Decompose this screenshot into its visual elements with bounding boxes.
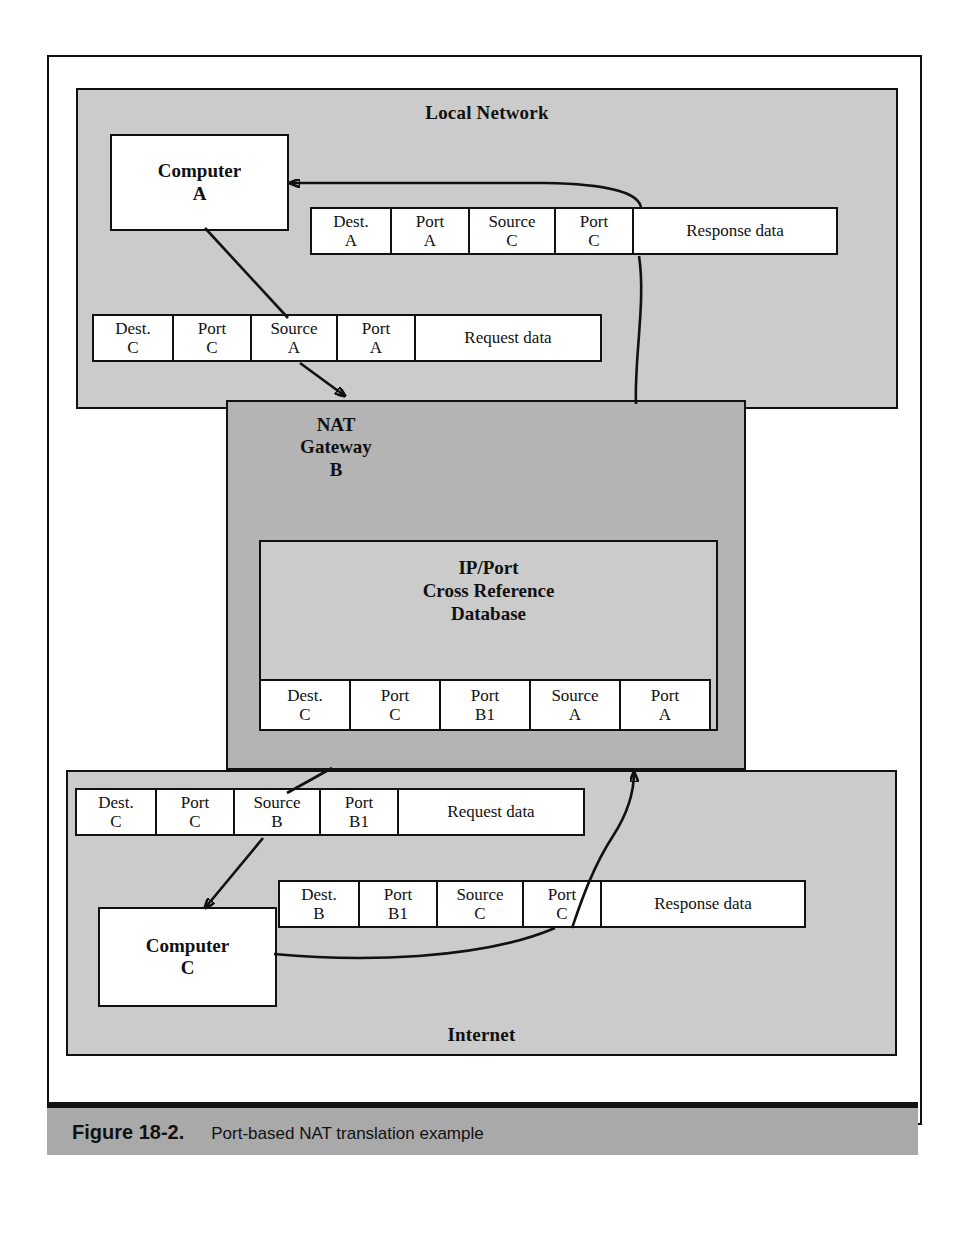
packet-field-dest: Dest. A xyxy=(310,207,392,255)
packet-field-port: Port B1 xyxy=(319,788,399,836)
computer-a-label-line1: Computer xyxy=(158,160,241,181)
field-label: Port xyxy=(548,885,576,904)
local-network-request-packet: Dest. C Port C Source A Port A Request d… xyxy=(92,314,602,362)
field-value: C xyxy=(110,812,121,831)
field-value: B1 xyxy=(349,812,369,831)
db-field-port-c: Port C xyxy=(349,679,441,731)
packet-field-source: Source A xyxy=(250,314,338,362)
packet-field-source: Source B xyxy=(233,788,321,836)
database-title: IP/Port Cross Reference Database xyxy=(261,556,716,626)
local-network-response-packet: Dest. A Port A Source C Port C Response … xyxy=(310,207,838,255)
computer-c-node[interactable]: Computer C xyxy=(98,907,277,1007)
field-value: B xyxy=(313,904,324,923)
db-field-port-a: Port A xyxy=(619,679,711,731)
field-value: A xyxy=(370,338,382,357)
packet-field-payload: Response data xyxy=(632,207,838,255)
field-label: Dest. xyxy=(115,319,150,338)
field-label: Source xyxy=(551,686,598,705)
packet-field-port: Port A xyxy=(336,314,416,362)
packet-field-port: Port B1 xyxy=(358,880,438,928)
nat-label-line2: Gateway xyxy=(300,436,372,457)
field-label: Dest. xyxy=(98,793,133,812)
field-value: C xyxy=(506,231,517,250)
nat-gateway-node[interactable]: NAT Gateway B IP/Port Cross Reference Da… xyxy=(226,400,746,770)
packet-field-source: Source C xyxy=(468,207,556,255)
nat-label-line3: B xyxy=(330,459,343,480)
field-value: A xyxy=(659,705,671,724)
field-label: Port xyxy=(580,212,608,231)
db-field-dest: Dest. C xyxy=(259,679,351,731)
field-value: B xyxy=(271,812,282,831)
field-label: Source xyxy=(270,319,317,338)
field-value: C xyxy=(299,705,310,724)
packet-field-payload: Request data xyxy=(397,788,585,836)
packet-field-dest: Dest. B xyxy=(278,880,360,928)
database-title-line2: Cross Reference xyxy=(423,580,555,601)
field-value: C xyxy=(588,231,599,250)
field-label: Port xyxy=(181,793,209,812)
packet-field-port: Port C xyxy=(554,207,634,255)
cross-reference-database: IP/Port Cross Reference Database Dest. C… xyxy=(259,540,718,731)
field-label: Port xyxy=(381,686,409,705)
packet-field-port: Port C xyxy=(172,314,252,362)
field-label: Dest. xyxy=(333,212,368,231)
computer-c-label: Computer C xyxy=(146,935,229,980)
field-label: Source xyxy=(456,885,503,904)
field-label: Dest. xyxy=(301,885,336,904)
field-value: C xyxy=(189,812,200,831)
figure-canvas: Local Network Computer A Dest. A Port A … xyxy=(0,0,962,1237)
field-label: Port xyxy=(198,319,226,338)
field-label: Dest. xyxy=(287,686,322,705)
field-value: C xyxy=(127,338,138,357)
computer-a-node[interactable]: Computer A xyxy=(110,134,289,231)
field-label: Port xyxy=(345,793,373,812)
figure-caption-text: Port-based NAT translation example xyxy=(211,1124,483,1144)
figure-number: Figure 18-2. xyxy=(72,1121,184,1144)
field-value: C xyxy=(474,904,485,923)
figure-caption-bar: Figure 18-2. Port-based NAT translation … xyxy=(47,1102,918,1155)
local-network-label: Local Network xyxy=(78,102,896,124)
database-mapping-row: Dest. C Port C Port B1 Source A Port A xyxy=(259,679,711,731)
packet-field-payload: Request data xyxy=(414,314,602,362)
field-value: B1 xyxy=(475,705,495,724)
computer-a-label: Computer A xyxy=(158,160,241,205)
field-value: C xyxy=(389,705,400,724)
field-value: B1 xyxy=(388,904,408,923)
packet-field-port: Port A xyxy=(390,207,470,255)
figure-caption: Figure 18-2. Port-based NAT translation … xyxy=(72,1121,484,1144)
field-value: A xyxy=(569,705,581,724)
computer-a-label-line2: A xyxy=(193,183,207,204)
field-label: Port xyxy=(416,212,444,231)
packet-field-payload: Response data xyxy=(600,880,806,928)
db-field-source: Source A xyxy=(529,679,621,731)
computer-c-label-line2: C xyxy=(181,957,195,978)
field-value: A xyxy=(345,231,357,250)
database-title-line1: IP/Port xyxy=(458,557,518,578)
internet-label: Internet xyxy=(68,1024,895,1046)
field-label: Source xyxy=(253,793,300,812)
field-value: A xyxy=(424,231,436,250)
field-value: A xyxy=(288,338,300,357)
nat-label-line1: NAT xyxy=(317,414,356,435)
packet-field-port: Port C xyxy=(155,788,235,836)
db-field-port-b1: Port B1 xyxy=(439,679,531,731)
packet-field-dest: Dest. C xyxy=(92,314,174,362)
field-label: Port xyxy=(384,885,412,904)
internet-response-packet: Dest. B Port B1 Source C Port C Response… xyxy=(278,880,806,928)
packet-field-dest: Dest. C xyxy=(75,788,157,836)
field-label: Port xyxy=(362,319,390,338)
internet-request-packet: Dest. C Port C Source B Port B1 Request … xyxy=(75,788,585,836)
nat-gateway-label: NAT Gateway B xyxy=(266,414,406,481)
database-title-line3: Database xyxy=(451,603,526,624)
field-label: Port xyxy=(471,686,499,705)
computer-c-label-line1: Computer xyxy=(146,935,229,956)
field-value: C xyxy=(206,338,217,357)
packet-field-port: Port C xyxy=(522,880,602,928)
packet-field-source: Source C xyxy=(436,880,524,928)
field-value: C xyxy=(556,904,567,923)
field-label: Source xyxy=(488,212,535,231)
field-label: Port xyxy=(651,686,679,705)
